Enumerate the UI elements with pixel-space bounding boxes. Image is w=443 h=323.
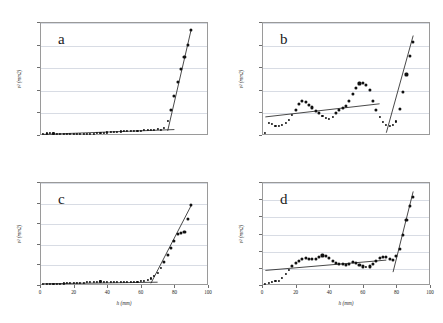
fit-line-layer-d — [0, 0, 443, 323]
figure-four-panel-scatter: 0.000.030.060.090.120.15v² (mm2)a0.000.0… — [0, 0, 443, 323]
fit-line-steep-fit — [393, 191, 413, 272]
